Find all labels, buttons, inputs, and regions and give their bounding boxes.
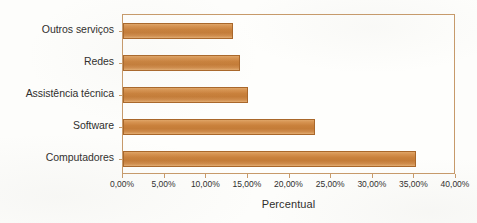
x-axis-tick (289, 174, 290, 178)
x-axis-tick-label: 10,00% (182, 179, 228, 189)
plot-area (122, 14, 455, 174)
y-axis-tick (119, 63, 123, 64)
x-axis-tick (205, 174, 206, 178)
x-axis-tick (455, 174, 456, 178)
x-axis-tick-label: 20,00% (266, 179, 312, 189)
x-axis-tick (413, 174, 414, 178)
y-axis-category-label: Assistência técnica (14, 87, 114, 99)
x-axis-tick-label: 5,00% (141, 179, 187, 189)
x-axis-title: Percentual (122, 198, 455, 210)
y-axis-category-labels: ComputadoresSoftwareAssistência técnicaR… (18, 14, 118, 174)
bar (123, 119, 315, 135)
x-axis-tick-label: 0,00% (99, 179, 145, 189)
bar (123, 55, 240, 71)
bar (123, 23, 233, 39)
x-axis-tick (164, 174, 165, 178)
y-axis-category-label: Computadores (14, 151, 114, 163)
y-axis-category-label: Outros serviços (14, 23, 114, 35)
x-axis-tick-label: 35,00% (390, 179, 436, 189)
x-axis-tick-label: 30,00% (349, 179, 395, 189)
x-axis-tick (247, 174, 248, 178)
x-axis-ticks: 0,00%5,00%10,00%15,00%20,00%25,00%30,00%… (122, 174, 455, 180)
y-axis-tick (119, 159, 123, 160)
y-axis-category-label: Software (14, 119, 114, 131)
y-axis-tick (119, 31, 123, 32)
x-axis-tick-label: 40,00% (432, 179, 477, 189)
x-axis-tick-label: 25,00% (307, 179, 353, 189)
bar (123, 151, 416, 167)
x-axis-tick-label: 15,00% (224, 179, 270, 189)
y-axis-tick (119, 127, 123, 128)
bar-chart-figure: Tipos de venda ComputadoresSoftwareAssis… (0, 0, 477, 223)
bar (123, 87, 248, 103)
x-axis-tick (372, 174, 373, 178)
x-axis-tick (330, 174, 331, 178)
y-axis-category-label: Redes (14, 55, 114, 67)
x-axis-tick (122, 174, 123, 178)
y-axis-tick (119, 95, 123, 96)
